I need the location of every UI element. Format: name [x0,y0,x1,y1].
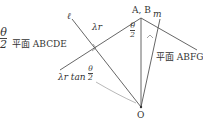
corner-fraction-theta-over-2: θ 2 [0,27,7,50]
line-m-label: m [153,10,162,19]
fraction-numerator: θ [130,22,135,30]
fraction-denominator: 2 [0,39,7,50]
segment-lambda-r-label: λr [92,23,102,32]
plane-abfgh-line [141,18,197,50]
fraction-denominator: 2 [88,74,93,82]
line-m [141,19,160,107]
plane-abcde-label: 平面 ABCDE [12,40,67,49]
origin-label: O [137,111,144,120]
right-angle-mark-right [147,35,153,38]
fraction-denominator: 2 [130,31,135,39]
point-o [140,106,142,108]
fraction-numerator: θ [88,65,93,73]
plane-abfgh-label: 平面 ABFGH [156,53,203,62]
tan-prefix: λr tan [58,72,86,82]
tan-fraction: θ 2 [88,65,93,81]
apex-label: A, B [132,6,151,15]
fraction-numerator: θ [0,27,7,38]
apex-angle-theta-over-2: θ 2 [130,22,135,39]
tan-label: λr tan [58,73,86,82]
line-l-label: ℓ [67,12,71,21]
